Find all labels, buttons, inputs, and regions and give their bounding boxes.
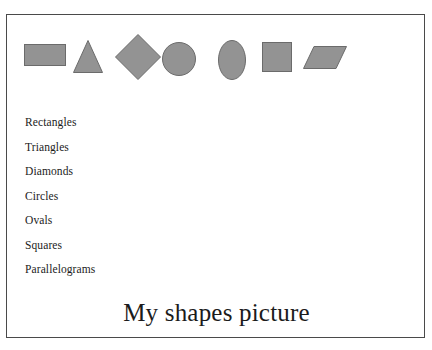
list-item: Diamonds (25, 159, 285, 184)
square-shape (262, 42, 292, 72)
diamond-shape (115, 34, 161, 80)
list-item: Parallelograms (25, 257, 285, 282)
oval-glyph (218, 40, 246, 80)
triangle-shape (73, 40, 103, 73)
list-item: Rectangles (25, 110, 285, 135)
drawing-canvas: Rectangles Triangles Diamonds Circles Ov… (0, 0, 432, 350)
circle-shape (162, 42, 196, 76)
list-item: Circles (25, 184, 285, 209)
triangle-glyph (73, 40, 103, 73)
oval-shape (218, 40, 246, 80)
rectangle-glyph (24, 44, 66, 66)
list-item: Triangles (25, 135, 285, 160)
square-glyph (262, 42, 292, 72)
picture-caption: My shapes picture (7, 297, 426, 329)
parallelogram-glyph (303, 46, 347, 69)
shape-name-list: Rectangles Triangles Diamonds Circles Ov… (25, 110, 285, 282)
diamond-glyph (115, 34, 161, 80)
rectangle-shape (24, 44, 66, 66)
list-item: Ovals (25, 208, 285, 233)
shapes-row (7, 15, 426, 95)
parallelogram-shape (303, 46, 347, 69)
circle-glyph (162, 42, 196, 76)
list-item: Squares (25, 233, 285, 258)
picture-frame: Rectangles Triangles Diamonds Circles Ov… (6, 14, 425, 338)
